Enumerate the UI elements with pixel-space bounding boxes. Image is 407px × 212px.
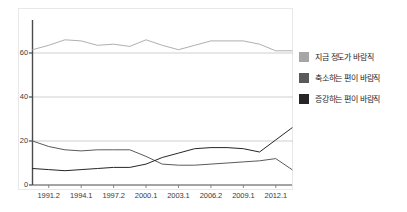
legend-label-0: 지금 정도가 바람직 bbox=[315, 51, 373, 62]
x-tick-label: 2000.1 bbox=[129, 191, 163, 200]
gridlines bbox=[33, 53, 294, 141]
legend-swatch-icon-0 bbox=[299, 52, 309, 62]
series-line bbox=[33, 141, 293, 170]
series-lines bbox=[33, 40, 293, 171]
x-tick-label: 2009.1 bbox=[226, 191, 260, 200]
legend-item-0[interactable]: 지금 정도가 바람직 bbox=[299, 46, 405, 67]
x-tick-label: 1991.2 bbox=[32, 191, 66, 200]
x-tick-label: 1994.1 bbox=[64, 191, 98, 200]
legend-swatch-icon-1 bbox=[299, 73, 309, 83]
legend-item-2[interactable]: 증강하는 편이 바람직 bbox=[299, 88, 405, 109]
x-tick-label: 2012.1 bbox=[259, 191, 293, 200]
y-tick-label: 60 bbox=[6, 48, 28, 57]
series-line bbox=[33, 40, 293, 51]
x-tick-label: 2003.1 bbox=[161, 191, 195, 200]
legend-item-1[interactable]: 축소하는 편이 바람직 bbox=[299, 67, 405, 88]
y-tick-label: 20 bbox=[6, 136, 28, 145]
chart-legend: 지금 정도가 바람직 축소하는 편이 바람직 증강하는 편이 바람직 bbox=[299, 46, 405, 109]
legend-swatch-icon-2 bbox=[299, 94, 309, 104]
y-tick-label: 40 bbox=[6, 92, 28, 101]
y-tick-label: 0 bbox=[6, 180, 28, 189]
axis-lines bbox=[33, 20, 293, 185]
line-chart-figure: 6040200 1991.21994.11997.22000.12003.120… bbox=[0, 0, 407, 212]
x-tick-label: 2006.2 bbox=[194, 191, 228, 200]
x-tick-label: 1997.2 bbox=[97, 191, 131, 200]
legend-label-1: 축소하는 편이 바람직 bbox=[315, 72, 380, 83]
legend-label-2: 증강하는 편이 바람직 bbox=[315, 93, 380, 104]
